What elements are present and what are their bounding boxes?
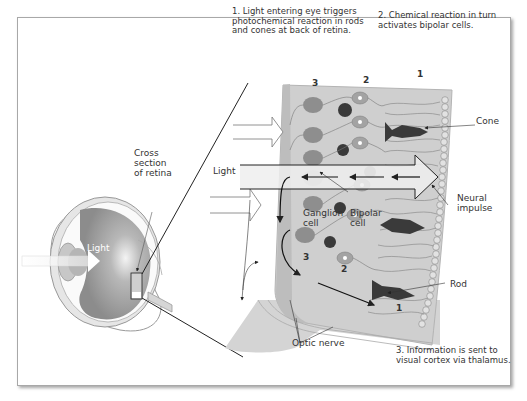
caption-step-3: 3. Information is sent to visual cortex … — [396, 346, 511, 365]
label-rod: Rod — [450, 279, 467, 289]
label-bipolar-cell: Bipolar cell — [350, 208, 382, 228]
caption-step-2: 2. Chemical reaction in turn activates b… — [378, 11, 496, 30]
layer-number-3-bottom: 3 — [303, 252, 309, 262]
label-light-retina: Light — [213, 166, 235, 176]
caption-step-1: 1. Light entering eye triggers photochem… — [232, 7, 364, 36]
label-optic-nerve: Optic nerve — [292, 338, 344, 348]
retina-diagram-art — [0, 0, 527, 401]
layer-number-1-top: 1 — [417, 69, 423, 79]
label-neural-impulse: Neural impulse — [457, 193, 492, 213]
eyeball — [22, 197, 172, 331]
layer-number-1-bottom: 1 — [396, 303, 402, 313]
label-light-eye: Light — [87, 243, 109, 253]
label-ganglion-cell: Ganglion cell — [303, 208, 343, 228]
label-cone: Cone — [476, 116, 499, 126]
layer-number-2-top: 2 — [363, 75, 369, 85]
layer-number-2-bottom: 2 — [341, 264, 347, 274]
label-cross-section: Cross section of retina — [134, 148, 172, 178]
zoom-line-top — [142, 83, 248, 274]
layer-number-3-top: 3 — [312, 78, 318, 88]
